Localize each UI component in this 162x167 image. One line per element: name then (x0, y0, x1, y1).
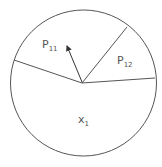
label-p11-sub: 11 (49, 45, 58, 53)
right-boundary-line (82, 78, 155, 83)
label-p12: P12 (117, 54, 133, 69)
label-x1-sub: 1 (85, 120, 89, 128)
partitioned-circle-diagram: P11 P12 x1 (0, 0, 162, 167)
left-boundary-line (14, 60, 82, 83)
label-p12-sub: 12 (124, 61, 133, 69)
direction-arrow (67, 46, 82, 82)
label-x1: x1 (78, 113, 89, 128)
diagram-canvas: P11 P12 x1 (0, 0, 162, 167)
label-p11: P11 (42, 38, 58, 53)
